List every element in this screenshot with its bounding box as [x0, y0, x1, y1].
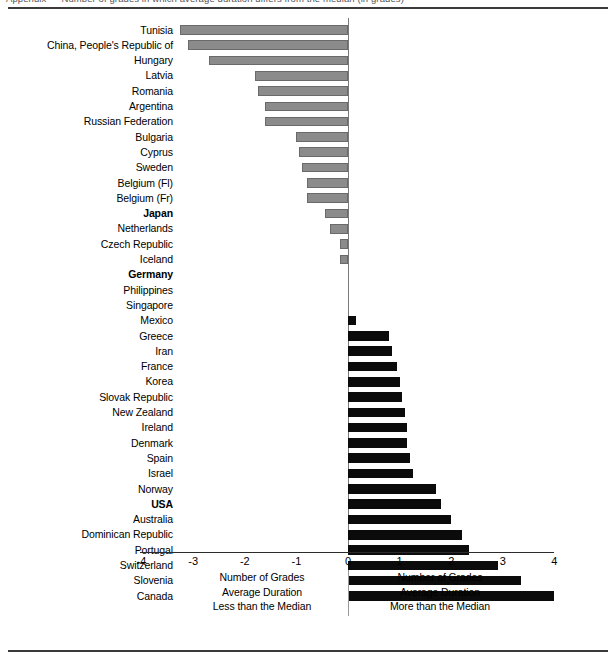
chart-row: Bulgaria — [0, 130, 616, 145]
chart-row: France — [0, 359, 616, 374]
bar — [348, 453, 410, 463]
bar — [325, 209, 348, 219]
chart-row: Spain — [0, 451, 616, 466]
bar — [348, 530, 462, 540]
bar — [348, 469, 413, 479]
legend-left-line: Average Duration — [182, 585, 342, 600]
x-tick-label: 2 — [436, 555, 466, 567]
chart-row: Denmark — [0, 436, 616, 451]
bar — [348, 377, 400, 387]
row-label: USA — [151, 497, 173, 512]
chart-row: Greece — [0, 329, 616, 344]
chart-row: Israel — [0, 466, 616, 481]
row-label: Canada — [137, 589, 173, 604]
chart-row: Cyprus — [0, 145, 616, 160]
chart-row: Dominican Republic — [0, 527, 616, 542]
chart-row: Australia — [0, 512, 616, 527]
bar — [265, 117, 348, 127]
chart-row: Japan — [0, 206, 616, 221]
row-label: Hungary — [134, 53, 173, 68]
x-tick-label: 0 — [333, 555, 363, 567]
row-label: Korea — [145, 374, 173, 389]
bar — [348, 331, 389, 341]
row-label: Slovak Republic — [99, 390, 173, 405]
chart-row: Iran — [0, 344, 616, 359]
row-label: Bulgaria — [135, 130, 173, 145]
row-label: New Zealand — [112, 405, 173, 420]
bar — [348, 499, 441, 509]
row-label: Tunisia — [140, 23, 173, 38]
bar — [299, 147, 348, 157]
row-label: Belgium (Fl) — [118, 176, 173, 191]
bar — [348, 561, 498, 571]
row-label: Romania — [132, 84, 173, 99]
bar — [180, 25, 348, 35]
row-label: Israel — [148, 466, 173, 481]
row-label: Mexico — [140, 313, 173, 328]
x-tick-label: -3 — [178, 555, 208, 567]
row-label: Philippines — [123, 283, 173, 298]
chart-row: Korea — [0, 374, 616, 389]
row-label: Slovenia — [134, 573, 173, 588]
chart-row: Russian Federation — [0, 114, 616, 129]
row-label: Iceland — [140, 252, 173, 267]
row-label: Netherlands — [117, 221, 173, 236]
x-tick-label: 3 — [488, 555, 518, 567]
x-tick-label: 4 — [539, 555, 569, 567]
bar — [330, 224, 348, 234]
bar — [307, 193, 348, 203]
row-label: Denmark — [131, 436, 173, 451]
bar — [209, 56, 348, 66]
chart-row: Netherlands — [0, 221, 616, 236]
bar — [307, 178, 348, 188]
row-label: Japan — [143, 206, 173, 221]
x-tick-label: -1 — [281, 555, 311, 567]
bar — [348, 423, 407, 433]
bar — [348, 515, 451, 525]
chart-row: Ireland — [0, 420, 616, 435]
bottom-divider-rule — [8, 650, 608, 652]
clipped-header-text: Appendix — Number of grades in which ave… — [0, 0, 616, 7]
row-label: China, People's Republic of — [47, 38, 173, 53]
bar — [188, 40, 348, 50]
chart-row: Philippines — [0, 283, 616, 298]
row-label: Cyprus — [140, 145, 173, 160]
chart-row: Belgium (Fl) — [0, 176, 616, 191]
legend-divider — [348, 570, 349, 616]
bar — [348, 346, 392, 356]
chart-row: Singapore — [0, 298, 616, 313]
x-tick-label: 1 — [385, 555, 415, 567]
row-label: Belgium (Fr) — [116, 191, 173, 206]
bar — [296, 132, 348, 142]
bar — [348, 316, 356, 326]
bar — [265, 102, 348, 112]
chart-row: Hungary — [0, 53, 616, 68]
chart-row: Belgium (Fr) — [0, 191, 616, 206]
chart-row: Germany — [0, 267, 616, 282]
legend-right-line: More than the Median — [360, 599, 520, 614]
chart-row: Norway — [0, 482, 616, 497]
bar — [340, 255, 348, 265]
chart-row: China, People's Republic of — [0, 38, 616, 53]
row-label: Argentina — [129, 99, 173, 114]
diverging-bar-chart: TunisiaChina, People's Republic ofHungar… — [0, 18, 616, 578]
bar — [255, 71, 348, 81]
chart-row: New Zealand — [0, 405, 616, 420]
row-label: France — [141, 359, 173, 374]
row-label: Czech Republic — [101, 237, 173, 252]
chart-row: Tunisia — [0, 23, 616, 38]
row-label: Russian Federation — [84, 114, 173, 129]
chart-row: Czech Republic — [0, 237, 616, 252]
clipped-header-label: Appendix — Number of grades in which ave… — [6, 0, 404, 4]
row-label: Greece — [139, 329, 173, 344]
chart-row: Latvia — [0, 68, 616, 83]
chart-row: Mexico — [0, 313, 616, 328]
chart-row: USA — [0, 497, 616, 512]
row-label: Germany — [128, 267, 173, 282]
chart-row: Slovak Republic — [0, 390, 616, 405]
row-label: Ireland — [142, 420, 173, 435]
row-label: Dominican Republic — [81, 527, 173, 542]
row-label: Sweden — [136, 160, 173, 175]
bar — [258, 86, 348, 96]
row-label: Norway — [138, 482, 173, 497]
